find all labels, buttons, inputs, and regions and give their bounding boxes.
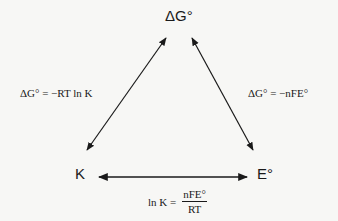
equation-dg-rt-lnk: ΔG° = −RT ln K [20,88,93,99]
fraction-numerator: nFE° [182,189,207,202]
node-k: K [75,166,85,181]
node-delta-g: ΔG° [165,8,193,23]
equation-dg-nfe: ΔG° = −nFE° [248,88,308,99]
arrows-layer [0,0,338,221]
fraction-denominator: RT [188,202,201,215]
arrow-dg-to-e [192,38,253,150]
node-e: E° [257,166,273,181]
equation-lhs: ln K = [148,197,176,208]
equation-lnk-nfe-rt: ln K = nFE° RT [148,189,207,215]
fraction: nFE° RT [182,189,207,215]
arrow-k-to-dg [87,38,166,150]
